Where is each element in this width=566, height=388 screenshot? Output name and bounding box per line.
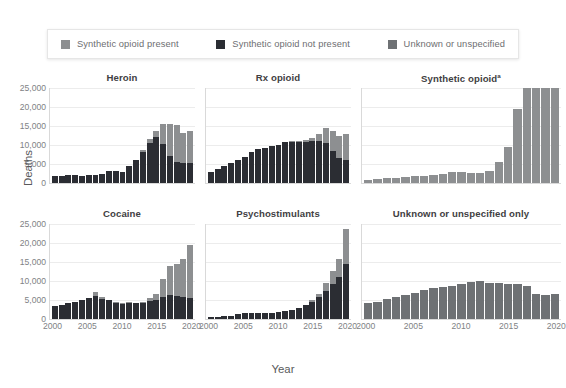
bar-segment-synthetic-not-present bbox=[323, 143, 329, 183]
bar-segment-synthetic-present bbox=[187, 245, 193, 298]
bar bbox=[72, 302, 78, 319]
bar bbox=[411, 293, 419, 319]
bar-segment-synthetic-present bbox=[330, 131, 336, 152]
bar-segment-synthetic-not-present bbox=[126, 303, 132, 319]
bar bbox=[59, 176, 65, 183]
bar-segment-unknown-unspecified bbox=[373, 302, 381, 319]
y-axis-tick-label: 25,000 bbox=[20, 83, 46, 93]
bar-segment-synthetic-not-present bbox=[120, 172, 126, 183]
bar-segment-synthetic-not-present bbox=[228, 316, 234, 319]
bar-group bbox=[362, 88, 561, 183]
bar-segment-synthetic-present bbox=[541, 88, 549, 183]
bar bbox=[153, 131, 159, 183]
bar bbox=[485, 171, 493, 183]
bar bbox=[282, 142, 288, 183]
bar-segment-synthetic-not-present bbox=[93, 175, 99, 183]
bar bbox=[276, 312, 282, 319]
bar-segment-synthetic-not-present bbox=[174, 296, 180, 319]
bar-segment-synthetic-present bbox=[180, 259, 186, 298]
bar-segment-synthetic-not-present bbox=[208, 172, 214, 183]
bar-segment-synthetic-present bbox=[174, 125, 180, 161]
bar bbox=[429, 175, 437, 183]
chart-panel-grid: Heroin05,00010,00015,00020,00025,000Rx o… bbox=[0, 72, 566, 362]
bar-segment-synthetic-not-present bbox=[289, 142, 295, 183]
bar-segment-synthetic-not-present bbox=[187, 163, 193, 183]
bar-segment-synthetic-not-present bbox=[99, 299, 105, 319]
panel-synthetic-opioid: Synthetic opioida bbox=[361, 72, 561, 204]
bar-segment-synthetic-not-present bbox=[343, 160, 349, 183]
bar bbox=[303, 305, 309, 319]
bar-segment-synthetic-present bbox=[392, 178, 400, 183]
plot-area bbox=[49, 224, 195, 320]
bar bbox=[249, 152, 255, 183]
bar-segment-synthetic-not-present bbox=[309, 302, 315, 319]
bar bbox=[215, 169, 221, 183]
bar bbox=[392, 178, 400, 183]
bar-segment-synthetic-not-present bbox=[303, 142, 309, 183]
bar bbox=[106, 300, 112, 319]
bar bbox=[420, 290, 428, 319]
bar bbox=[541, 295, 549, 319]
panel-row-bottom: Cocaine05,00010,00015,00020,00025,000200… bbox=[0, 208, 566, 340]
bar-segment-synthetic-not-present bbox=[296, 142, 302, 183]
bar bbox=[228, 316, 234, 319]
bar bbox=[221, 316, 227, 319]
bar-segment-synthetic-present bbox=[532, 88, 540, 183]
bar bbox=[242, 313, 248, 319]
bar-segment-synthetic-not-present bbox=[120, 304, 126, 319]
bar bbox=[133, 160, 139, 183]
bar bbox=[249, 313, 255, 319]
x-axis-ticks: 20002005201020152020 bbox=[361, 321, 561, 335]
bar bbox=[255, 313, 261, 319]
bar-segment-unknown-unspecified bbox=[495, 283, 503, 319]
bar-segment-synthetic-not-present bbox=[215, 169, 221, 183]
bar-segment-unknown-unspecified bbox=[541, 295, 549, 319]
bar-segment-synthetic-not-present bbox=[86, 175, 92, 183]
bar-segment-synthetic-not-present bbox=[208, 317, 214, 319]
bar-segment-synthetic-not-present bbox=[65, 303, 71, 319]
y-axis-tick-label: 10,000 bbox=[20, 276, 46, 286]
bar bbox=[373, 179, 381, 183]
bar bbox=[383, 299, 391, 319]
panel-row-top: Heroin05,00010,00015,00020,00025,000Rx o… bbox=[0, 72, 566, 204]
bar bbox=[167, 266, 173, 319]
bar-segment-synthetic-present bbox=[523, 88, 531, 183]
bar bbox=[113, 302, 119, 319]
bar-segment-synthetic-not-present bbox=[140, 303, 146, 319]
panel-title: Cocaine bbox=[49, 208, 195, 219]
panel-title: Rx opioid bbox=[205, 72, 351, 83]
bar-segment-synthetic-not-present bbox=[336, 277, 342, 319]
bar-segment-synthetic-present bbox=[343, 229, 349, 264]
bar bbox=[296, 141, 302, 183]
bar bbox=[208, 172, 214, 183]
bar bbox=[551, 88, 559, 183]
bar bbox=[120, 172, 126, 183]
y-axis-tick-label: 5,000 bbox=[24, 295, 46, 305]
bar bbox=[551, 294, 559, 319]
bar bbox=[323, 128, 329, 183]
panel-rx-opioid: Rx opioid bbox=[205, 72, 351, 204]
x-axis-tick-label: 2000 bbox=[199, 321, 218, 331]
bar-segment-synthetic-not-present bbox=[59, 305, 65, 319]
bar-segment-synthetic-not-present bbox=[153, 137, 159, 183]
bar-segment-synthetic-not-present bbox=[316, 297, 322, 319]
panel-cocaine: Cocaine05,00010,00015,00020,00025,000200… bbox=[49, 208, 195, 340]
bar bbox=[364, 303, 372, 319]
bar-segment-synthetic-not-present bbox=[59, 176, 65, 183]
bar bbox=[160, 124, 166, 183]
bar bbox=[296, 308, 302, 319]
bar bbox=[467, 282, 475, 319]
bar bbox=[309, 138, 315, 183]
bar-segment-synthetic-not-present bbox=[249, 313, 255, 319]
bar bbox=[364, 180, 372, 183]
bar-segment-unknown-unspecified bbox=[551, 294, 559, 319]
bar bbox=[153, 294, 159, 319]
x-axis-tick-label: 2015 bbox=[147, 321, 166, 331]
bar bbox=[147, 139, 153, 183]
bar-segment-synthetic-present bbox=[495, 162, 503, 183]
bar bbox=[276, 145, 282, 183]
bar bbox=[140, 150, 146, 183]
bar bbox=[86, 298, 92, 319]
panel-title-superscript: a bbox=[497, 72, 501, 79]
bar bbox=[215, 317, 221, 319]
